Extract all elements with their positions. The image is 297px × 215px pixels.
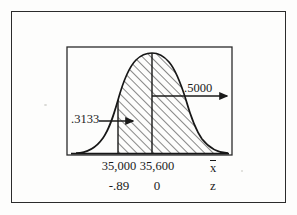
xbar-overbar-symbol: x: [210, 160, 216, 175]
z-axis-label: z: [196, 179, 230, 192]
left-area-label: .3133: [71, 113, 99, 126]
right-area-label: .5000: [184, 82, 212, 95]
figure-root: .3133 .5000 35,000 35,600 x -.89 0 z: [0, 0, 297, 215]
z-tick-zero: 0: [131, 179, 183, 192]
xbar-tick-35600: 35,600: [131, 160, 183, 173]
shaded-area-hatch: [118, 50, 230, 154]
xbar-axis-label: x: [196, 160, 230, 175]
